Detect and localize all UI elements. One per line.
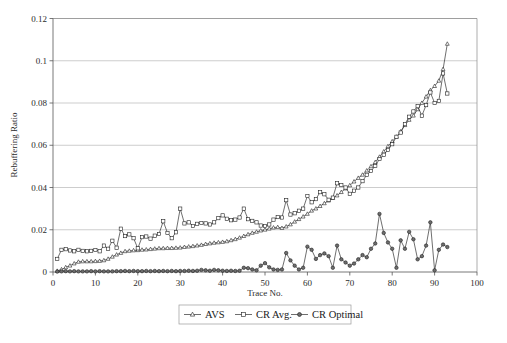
circle-marker	[128, 269, 131, 272]
triangle-marker	[293, 220, 297, 223]
circle-marker	[365, 255, 368, 258]
square-marker	[68, 249, 71, 252]
triangle-marker	[157, 246, 161, 249]
circle-marker	[255, 269, 258, 272]
square-marker	[102, 244, 105, 247]
square-marker	[340, 183, 343, 186]
series-polyline	[57, 44, 447, 271]
square-marker	[196, 222, 199, 225]
circle-marker	[195, 269, 198, 272]
circle-marker	[212, 268, 215, 271]
square-marker	[217, 216, 220, 219]
triangle-marker	[335, 193, 339, 196]
circle-marker	[106, 270, 109, 273]
circle-marker	[123, 269, 126, 272]
circle-marker	[119, 269, 122, 272]
circle-marker	[272, 268, 275, 271]
square-marker	[119, 227, 122, 230]
circle-marker	[331, 266, 334, 269]
triangle-marker	[437, 79, 441, 82]
square-marker	[90, 249, 93, 252]
circle-marker	[297, 268, 300, 271]
square-marker	[234, 218, 237, 221]
series-avs	[55, 42, 449, 273]
circle-marker	[242, 266, 245, 269]
circle-marker	[348, 264, 351, 267]
square-marker	[98, 250, 101, 253]
square-marker	[437, 99, 440, 102]
square-marker	[408, 115, 411, 118]
chart-figure: 00.020.040.060.080.10.12 010203040506070…	[0, 0, 507, 343]
circle-marker	[407, 230, 410, 233]
circle-marker	[293, 264, 296, 267]
square-marker	[77, 248, 80, 251]
circle-marker	[306, 245, 309, 248]
circle-marker	[102, 270, 105, 273]
x-axis-title: Trace No.	[247, 288, 283, 298]
square-marker	[56, 257, 59, 260]
square-marker	[272, 218, 275, 221]
triangle-marker	[445, 42, 449, 45]
square-marker	[310, 201, 313, 204]
circle-marker	[416, 258, 419, 261]
square-marker	[416, 105, 419, 108]
circle-marker	[145, 269, 148, 272]
circle-marker	[344, 261, 347, 264]
circle-marker	[64, 269, 67, 272]
square-marker	[280, 216, 283, 219]
square-marker	[365, 173, 368, 176]
circle-marker	[390, 247, 393, 250]
square-marker	[166, 231, 169, 234]
circle-marker	[399, 239, 402, 242]
square-marker	[111, 239, 114, 242]
triangle-marker	[85, 259, 89, 262]
circle-marker	[446, 245, 449, 248]
square-marker	[123, 234, 126, 237]
square-marker	[344, 186, 347, 189]
circle-marker	[200, 268, 203, 271]
square-marker	[183, 222, 186, 225]
circle-marker	[98, 269, 101, 272]
circle-marker	[382, 231, 385, 234]
circle-marker	[157, 269, 160, 272]
square-marker	[238, 216, 241, 219]
square-marker	[187, 221, 190, 224]
square-marker	[255, 221, 258, 224]
circle-marker	[369, 247, 372, 250]
square-marker	[446, 92, 449, 95]
legend-label: CR Avg.	[256, 309, 292, 320]
y-tick-label: 0	[43, 267, 48, 277]
legend-label: CR Optimal	[312, 309, 363, 320]
y-tick-label: 0.02	[31, 225, 47, 235]
square-marker	[323, 193, 326, 196]
circle-marker	[361, 253, 364, 256]
circle-marker	[153, 269, 156, 272]
circle-marker	[81, 270, 84, 273]
square-marker	[357, 186, 360, 189]
circle-marker	[263, 261, 266, 264]
square-marker	[60, 248, 63, 251]
square-marker	[424, 103, 427, 106]
circle-marker	[140, 269, 143, 272]
circle-marker	[310, 248, 313, 251]
square-marker	[412, 110, 415, 113]
circle-marker	[429, 221, 432, 224]
triangle-marker	[314, 207, 318, 210]
square-marker	[208, 223, 211, 226]
circle-marker	[217, 269, 220, 272]
square-marker	[225, 217, 228, 220]
triangle-marker	[81, 259, 85, 262]
square-marker	[81, 249, 84, 252]
square-marker	[352, 189, 355, 192]
triangle-marker	[356, 176, 360, 179]
circle-marker	[378, 212, 381, 215]
square-marker	[73, 250, 76, 253]
data-series-group	[55, 42, 449, 274]
circle-marker	[357, 258, 360, 261]
circle-marker	[420, 254, 423, 257]
circle-marker	[340, 258, 343, 261]
circle-marker	[166, 269, 169, 272]
circle-marker	[335, 244, 338, 247]
square-marker	[318, 190, 321, 193]
square-marker	[132, 237, 135, 240]
